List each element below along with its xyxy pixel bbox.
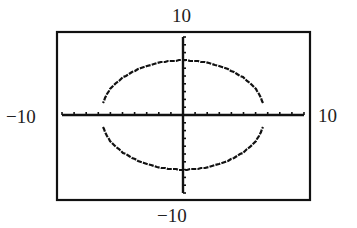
calculator-graph-screen (0, 0, 357, 228)
